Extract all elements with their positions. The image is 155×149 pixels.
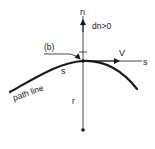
s-axis-label: s bbox=[143, 57, 148, 67]
streamline-diagram: n dn>0 (b) V s s path line r bbox=[0, 0, 155, 149]
radius-label: r bbox=[72, 96, 75, 106]
center-of-curvature-point bbox=[81, 128, 85, 132]
n-axis-label: n bbox=[80, 7, 85, 17]
path-line-label: path line bbox=[11, 82, 45, 102]
diagram-svg: n dn>0 (b) V s s path line r bbox=[0, 0, 155, 149]
point-b-leader bbox=[44, 54, 80, 59]
path-s-label: s bbox=[61, 66, 66, 76]
velocity-label: V bbox=[119, 48, 125, 58]
dn-condition-label: dn>0 bbox=[92, 21, 111, 31]
point-b-label: (b) bbox=[44, 42, 55, 52]
origin-point bbox=[81, 59, 85, 63]
